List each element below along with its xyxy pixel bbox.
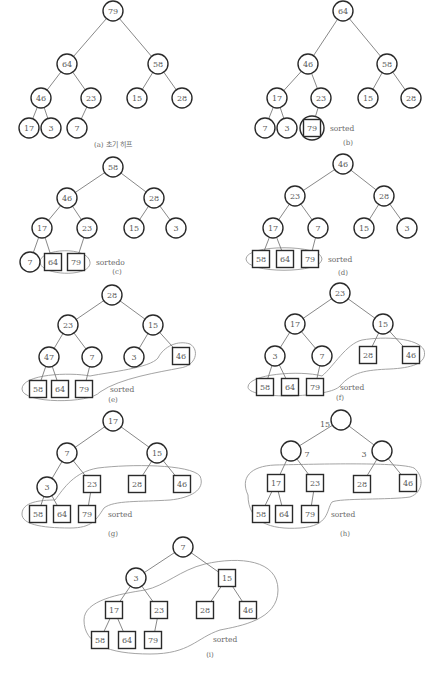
heap-node-circle [281, 441, 301, 461]
panel-c: 584628172315376479sortedo(c) [20, 157, 186, 276]
tree-node: 7 [20, 252, 40, 272]
node-side-value: 7 [304, 450, 309, 459]
panel-caption: (i) [206, 651, 214, 659]
node-value: 7 [180, 543, 185, 552]
node-value: 7 [319, 352, 324, 361]
sorted-label: sorted [213, 635, 237, 644]
tree-node: 58 [92, 632, 109, 649]
tree-node: 23 [311, 88, 331, 108]
node-value: 23 [82, 224, 92, 233]
node-side-value: 15 [320, 420, 330, 429]
tree-node: 7 [308, 218, 328, 238]
sorted-label: sorted [340, 383, 364, 392]
tree-node: 3 [397, 218, 417, 238]
node-value: 64 [280, 255, 290, 264]
tree-node: 79 [302, 506, 319, 523]
tree-node: 15 [320, 410, 351, 430]
tree-node: 79 [145, 632, 162, 649]
tree-node: 79 [307, 379, 324, 396]
node-value: 79 [310, 383, 320, 392]
node-value: 28 [177, 94, 187, 103]
node-value: 17 [268, 224, 278, 233]
node-value: 58 [382, 60, 392, 69]
node-value: 64 [62, 60, 72, 69]
tree-node: 7 [281, 441, 310, 461]
node-value: 23 [87, 480, 97, 489]
node-value: 64 [279, 510, 289, 519]
panel-caption: (d) [338, 269, 348, 277]
node-value: 15 [378, 320, 388, 329]
tree-node: 58 [377, 54, 397, 74]
node-value: 23 [154, 606, 164, 615]
tree-node: 46 [403, 347, 420, 364]
panel-caption: (a) 초기 히프 [94, 140, 133, 149]
node-value: 3 [131, 353, 136, 362]
node-value: 17 [108, 417, 118, 426]
tree-node: 7 [173, 537, 193, 557]
tree-node: 46 [400, 475, 417, 492]
panel-caption: (f) [336, 394, 344, 402]
tree-node: 23 [58, 315, 78, 335]
node-value: 28 [149, 194, 159, 203]
tree-node: 64 [276, 506, 293, 523]
tree-node: 15 [358, 88, 378, 108]
node-value: 15 [148, 321, 158, 330]
tree-node: 7 [67, 118, 87, 138]
node-value: 17 [24, 124, 34, 133]
node-value: 17 [290, 320, 300, 329]
sorted-label: sorted [330, 124, 354, 133]
node-value: 7 [27, 258, 32, 267]
tree-node: 15 [124, 218, 144, 238]
tree-node: 15 [219, 570, 236, 587]
node-value: 28 [363, 351, 373, 360]
node-value: 64 [57, 510, 67, 519]
tree-node: 58 [148, 54, 168, 74]
tree-node: 17 [268, 475, 285, 492]
node-value: 15 [359, 224, 369, 233]
node-value: 58 [260, 383, 270, 392]
node-value: 58 [153, 60, 163, 69]
node-value: 3 [272, 352, 277, 361]
tree-node: 58 [103, 157, 123, 177]
node-value: 64 [122, 636, 132, 645]
tree-node: 28 [144, 188, 164, 208]
tree-node: 46 [174, 476, 191, 493]
node-value: 58 [108, 163, 118, 172]
tree-node: 23 [84, 476, 101, 493]
node-value: 7 [74, 124, 79, 133]
tree-node: 58 [253, 506, 270, 523]
tree-node: 3 [41, 118, 61, 138]
sorted-label: sorted [328, 255, 352, 264]
tree-node: 17 [32, 218, 52, 238]
tree-node: 58 [30, 381, 47, 398]
tree-node: 23 [77, 218, 97, 238]
tree-node: 46 [240, 602, 257, 619]
tree-node: 28 [401, 88, 421, 108]
tree-node: 23 [330, 283, 350, 303]
tree-node: 28 [197, 602, 214, 619]
panel-e: 282315477346586479sorted(e) [22, 285, 195, 404]
node-value: 79 [148, 636, 158, 645]
tree-node: 7 [312, 346, 332, 366]
node-value: 23 [63, 321, 73, 330]
node-value: 58 [256, 255, 266, 264]
sorted-label: sorted [108, 510, 132, 519]
node-value: 46 [243, 606, 253, 615]
node-value: 3 [173, 224, 178, 233]
tree-node: 79 [79, 506, 96, 523]
node-value: 28 [107, 291, 117, 300]
node-value: 7 [262, 124, 267, 133]
tree-node: 64 [277, 251, 294, 268]
node-value: 79 [305, 255, 315, 264]
panel-h: 157317232846586479sorted(h) [245, 410, 421, 538]
panel-caption: (c) [112, 268, 122, 276]
node-value: 46 [62, 194, 72, 203]
node-value: 28 [200, 606, 210, 615]
tree-node: 79 [103, 1, 123, 21]
tree-node: 7 [57, 443, 77, 463]
tree-node: 15 [127, 88, 147, 108]
tree-node: 28 [360, 347, 377, 364]
tree-node: 64 [333, 1, 353, 21]
tree-node: 7 [255, 118, 275, 138]
node-value: 64 [55, 385, 65, 394]
